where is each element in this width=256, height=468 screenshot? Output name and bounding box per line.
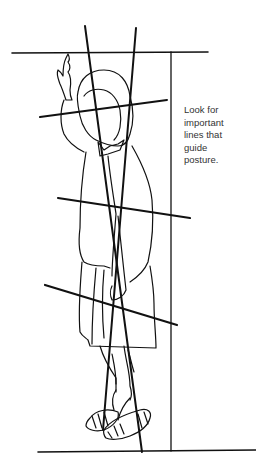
axis-line-1 (85, 26, 142, 452)
eye-line (40, 100, 167, 117)
posture-caption: Look for important lines that guide post… (184, 104, 254, 167)
top-horizontal-line (12, 52, 208, 53)
posture-diagram (0, 0, 256, 468)
guide-lines (12, 26, 256, 452)
bottom-horizontal-line (38, 450, 256, 452)
waist-line (58, 198, 190, 218)
